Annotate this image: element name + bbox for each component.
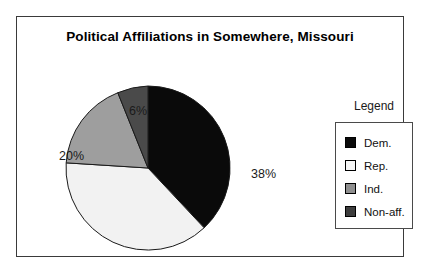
pie-label-dem: 38% <box>251 167 276 181</box>
legend-label-dem: Dem. <box>364 137 391 149</box>
legend-swatch-dem <box>345 137 356 148</box>
legend-title: Legend <box>335 99 413 113</box>
legend-label-non-aff: Non-aff. <box>364 206 405 218</box>
legend-swatch-rep <box>345 160 356 171</box>
pie-chart: 38% 36% 20% 6% <box>33 55 301 255</box>
legend-item-rep[interactable]: Rep. <box>345 154 412 177</box>
legend-swatch-ind <box>345 183 356 194</box>
pie-label-ind: 20% <box>59 149 84 163</box>
pie-label-non-aff: 6% <box>129 104 147 118</box>
legend-item-ind[interactable]: Ind. <box>345 177 412 200</box>
legend-item-dem[interactable]: Dem. <box>345 131 412 154</box>
chart-title: Political Affiliations in Somewhere, Mis… <box>17 29 403 44</box>
legend-item-non-aff[interactable]: Non-aff. <box>345 200 412 223</box>
legend-swatch-non-aff <box>345 206 356 217</box>
legend-box: Dem. Rep. Ind. Non-aff. <box>335 122 413 229</box>
chart-frame: Political Affiliations in Somewhere, Mis… <box>16 16 404 257</box>
legend-label-ind: Ind. <box>364 183 383 195</box>
legend-label-rep: Rep. <box>364 160 388 172</box>
